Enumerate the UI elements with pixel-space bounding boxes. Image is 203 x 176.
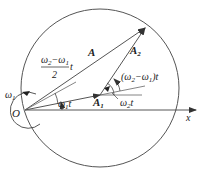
relative-angle-label: (ω2−ω1)t (121, 71, 159, 84)
locus-circle (21, 9, 179, 167)
omega1-rotation-label: ω1 (5, 89, 16, 102)
omega2t-pointer (112, 93, 118, 99)
origin-label: O (12, 107, 20, 119)
svg-text:ω2−ω1: ω2−ω1 (41, 54, 69, 67)
resultant-label: A (87, 46, 95, 58)
angle-arc-rel (114, 79, 120, 91)
x-axis-label: x (185, 112, 191, 123)
svg-text:2: 2 (52, 69, 57, 80)
phasor-a2-label: A2 (129, 44, 141, 58)
half-angle-label: ω2−ω1 2 t (41, 54, 73, 80)
angle-omega1t-label: ω1t (58, 98, 72, 111)
svg-text:t: t (70, 61, 73, 72)
phasor-diagram: O x A A1 A2 ω1 ω1t ω2t (ω2−ω1)t ω2−ω1 2 … (0, 0, 203, 176)
angle-omega2t-label: ω2t (120, 97, 134, 110)
phasor-a1-label: A1 (92, 96, 104, 110)
phasor-a2 (100, 28, 145, 95)
